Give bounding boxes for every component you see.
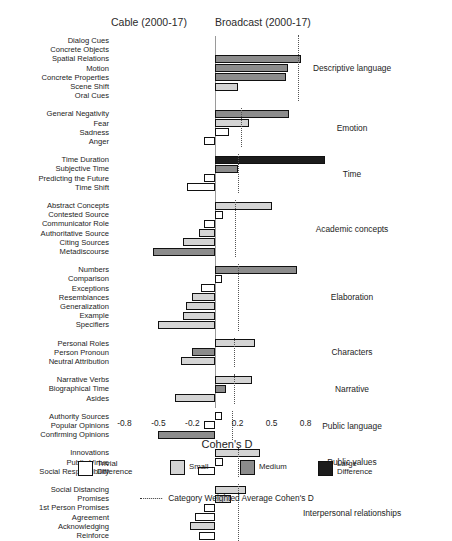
bar (215, 165, 238, 173)
bar (183, 238, 215, 246)
bar-row-label: Predicting the Future (0, 174, 109, 183)
bar-row: Sadness (0, 128, 452, 137)
bar-row: General Negativity (0, 109, 452, 118)
bar-row-label: Citing Sources (0, 238, 109, 247)
weighted-average-line (238, 264, 239, 330)
bar-row: Example (0, 311, 452, 320)
weighted-average-line (234, 374, 235, 404)
bar-row-label: Generalization (0, 302, 109, 311)
x-axis: -0.8-0.5-0.20.20.50.8 (0, 408, 452, 426)
bar (204, 504, 215, 512)
bar-row: Reinforce (0, 531, 452, 540)
bar (204, 137, 215, 145)
bar-row: Oral Cues (0, 91, 452, 100)
bar-row: Time Shift (0, 183, 452, 192)
bar-group: Personal RolesPerson PronounNeutral Attr… (0, 339, 452, 367)
legend-item-medium[interactable]: Medium (240, 460, 287, 475)
bar (187, 183, 215, 191)
legend-item-small[interactable]: Small (170, 460, 209, 475)
bar-row-label: Concrete Properties (0, 73, 109, 82)
bar-row-label: Example (0, 311, 109, 320)
bar-row-label: Resemblances (0, 293, 109, 302)
bar-row-label: Person Pronoun (0, 348, 109, 357)
bar-row: Exceptions (0, 284, 452, 293)
legend-swatch-large (318, 461, 333, 476)
bar-row-label: Reinforce (0, 531, 109, 540)
bar (183, 312, 215, 320)
bar-row-label: Comparison (0, 274, 109, 283)
bar (175, 394, 215, 402)
dotted-line-icon (140, 498, 162, 499)
bar-row-label: Sadness (0, 128, 109, 137)
bar-row-label: Subjective Time (0, 164, 109, 173)
legend-item-trivial[interactable]: Trivial Difference (78, 460, 132, 477)
category-label: Descriptive language (313, 63, 391, 73)
category-label: Characters (332, 347, 373, 357)
bar-row: Personal Roles (0, 339, 452, 348)
column-header-cable: Cable (2000-17) (111, 16, 187, 28)
legend-swatch-small (170, 460, 185, 475)
bar-row: Generalization (0, 302, 452, 311)
bar-row-label: Numbers (0, 265, 109, 274)
bar (215, 202, 272, 210)
legend-label-trivial: Trivial Difference (97, 460, 132, 477)
bar-row: Concrete Properties (0, 73, 452, 82)
bar-row: Fear (0, 119, 452, 128)
bar-row: Asides (0, 394, 452, 403)
bar-row-label: Contested Source (0, 210, 109, 219)
bar (195, 513, 215, 521)
bar-row-label: Personal Roles (0, 339, 109, 348)
x-axis-tick: 0.2 (232, 418, 244, 428)
bar (215, 55, 301, 63)
weighted-average-line (234, 338, 235, 368)
bar-row: Resemblances (0, 293, 452, 302)
bar (215, 128, 229, 136)
bar-row: Anger (0, 137, 452, 146)
category-label: Time (343, 169, 361, 179)
bar-row: Contested Source (0, 210, 452, 219)
category-label: Elaboration (331, 292, 373, 302)
x-axis-tick: -0.8 (117, 418, 131, 428)
bar (215, 385, 226, 393)
legend: Trivial DifferenceSmallMediumLarge Diffe… (0, 460, 452, 492)
bar-row: Abstract Concepts (0, 201, 452, 210)
bar-row-label: Promises (0, 494, 109, 503)
bar-group: General NegativityFearSadnessAngerEmotio… (0, 109, 452, 146)
bar (215, 211, 223, 219)
bar-row: Dialog Cues (0, 36, 452, 45)
bar-row-label: General Negativity (0, 109, 109, 118)
category-label: Emotion (337, 123, 368, 133)
bar (215, 266, 297, 274)
bar-row-label: Authoritative Source (0, 229, 109, 238)
bar (158, 321, 215, 329)
legend-label-small: Small (189, 463, 209, 471)
bar (204, 174, 215, 182)
bar-row: Acknowledging (0, 522, 452, 531)
bar (215, 110, 289, 118)
legend-item-large[interactable]: Large Difference (318, 460, 372, 477)
x-axis-tick: 0.5 (266, 418, 278, 428)
bar-row: Neutral Attribution (0, 357, 452, 366)
bar-row-label: Fear (0, 119, 109, 128)
bar (215, 83, 238, 91)
bar-row: Time Duration (0, 155, 452, 164)
plot-area: Dialog CuesConcrete ObjectsSpatial Relat… (0, 36, 452, 408)
x-axis-tick: 0.8 (300, 418, 312, 428)
bar-row: Metadiscourse (0, 247, 452, 256)
bar-group: NumbersComparisonExceptionsResemblancesG… (0, 265, 452, 329)
bar-row: Person Pronoun (0, 348, 452, 357)
weighted-average-line (238, 154, 239, 193)
bar-row-label: Dialog Cues (0, 36, 109, 45)
column-header-broadcast: Broadcast (2000-17) (215, 16, 311, 28)
bar-group: Dialog CuesConcrete ObjectsSpatial Relat… (0, 36, 452, 100)
bar (181, 357, 215, 365)
bar-row-label: Abstract Concepts (0, 201, 109, 210)
bar (204, 220, 215, 228)
weighted-average-line (235, 200, 236, 257)
bar-row: Numbers (0, 265, 452, 274)
legend-swatch-trivial (78, 461, 93, 476)
bar-row: Subjective Time (0, 164, 452, 173)
bar-row: Spatial Relations (0, 54, 452, 63)
legend-swatch-medium (240, 460, 255, 475)
bar-row: Narrative Verbs (0, 375, 452, 384)
